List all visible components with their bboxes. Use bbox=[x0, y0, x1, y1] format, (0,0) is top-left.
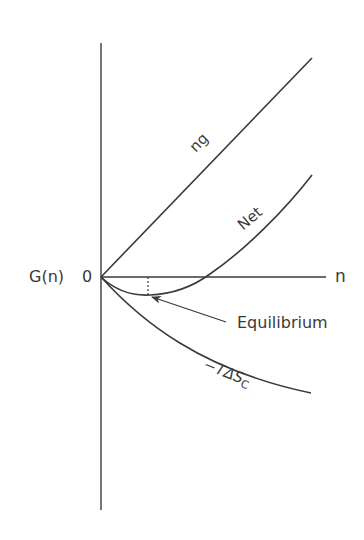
origin-label: 0 bbox=[82, 269, 92, 285]
equilibrium-label: Equilibrium bbox=[237, 315, 328, 331]
y-axis-label: G(n) bbox=[29, 269, 64, 285]
ng-line bbox=[101, 58, 312, 277]
equilibrium-arrow bbox=[152, 297, 226, 322]
x-axis-label: n bbox=[335, 268, 346, 285]
